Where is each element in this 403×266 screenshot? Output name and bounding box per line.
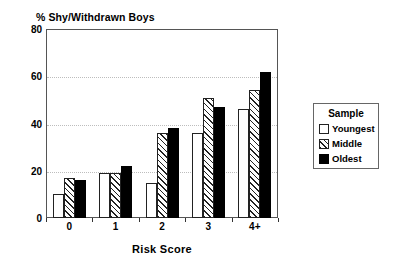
bar-group-3: [192, 29, 225, 218]
x-tick-mark-0: [46, 218, 47, 222]
chart-title: % Shy/Withdrawn Boys: [36, 11, 155, 23]
x-tick-mark-3: [185, 218, 186, 222]
legend-swatch-middle-icon: [319, 139, 329, 149]
bar-oldest-1: [121, 166, 132, 218]
bar-youngest-2: [146, 183, 157, 218]
x-tick-label-4+: 4+: [249, 221, 260, 232]
legend-label-middle: Middle: [332, 138, 362, 149]
x-tick-mark-1: [92, 218, 93, 222]
bar-youngest-0: [53, 194, 64, 218]
y-tick-label-0: 0: [36, 213, 42, 224]
legend-swatch-youngest-icon: [319, 124, 329, 134]
legend-title: Sample: [319, 108, 373, 119]
legend-item-youngest[interactable]: Youngest: [319, 123, 373, 134]
legend-label-oldest: Oldest: [332, 153, 362, 164]
x-tick-mark-end: [278, 218, 279, 222]
y-axis: 020406080: [10, 29, 42, 218]
bar-group-1: [99, 29, 132, 218]
bar-middle-2: [157, 133, 168, 218]
bar-middle-3: [203, 98, 214, 218]
y-tick-label-20: 20: [31, 165, 42, 176]
legend-item-oldest[interactable]: Oldest: [319, 153, 373, 164]
y-tick-label-80: 80: [31, 24, 42, 35]
x-axis-title: Risk Score: [46, 243, 278, 255]
x-tick-mark-2: [139, 218, 140, 222]
bar-youngest-4+: [238, 109, 249, 218]
chart-figure: % Shy/Withdrawn Boys 020406080 01234+ Ri…: [0, 0, 403, 266]
bar-youngest-3: [192, 133, 203, 218]
bar-group-2: [146, 29, 179, 218]
bar-youngest-1: [99, 173, 110, 218]
bar-middle-4+: [249, 90, 260, 218]
legend-swatch-oldest-icon: [319, 154, 329, 164]
x-axis: 01234+: [46, 221, 278, 237]
x-tick-mark-4: [232, 218, 233, 222]
legend-item-middle[interactable]: Middle: [319, 138, 373, 149]
x-tick-label-1: 1: [113, 221, 119, 232]
bar-oldest-0: [75, 180, 86, 218]
bar-middle-1: [110, 173, 121, 218]
x-tick-label-0: 0: [66, 221, 72, 232]
bars-layer: [46, 29, 278, 218]
bar-oldest-2: [168, 128, 179, 218]
bar-group-4+: [238, 29, 271, 218]
legend-entries: YoungestMiddleOldest: [319, 123, 373, 164]
y-tick-label-60: 60: [31, 71, 42, 82]
bar-group-0: [53, 29, 86, 218]
legend: Sample YoungestMiddleOldest: [313, 103, 379, 169]
x-tick-label-2: 2: [159, 221, 165, 232]
y-tick-label-40: 40: [31, 118, 42, 129]
bar-oldest-3: [214, 107, 225, 218]
bar-middle-0: [64, 178, 75, 218]
legend-label-youngest: Youngest: [332, 123, 375, 134]
x-tick-label-3: 3: [206, 221, 212, 232]
bar-oldest-4+: [260, 72, 271, 218]
